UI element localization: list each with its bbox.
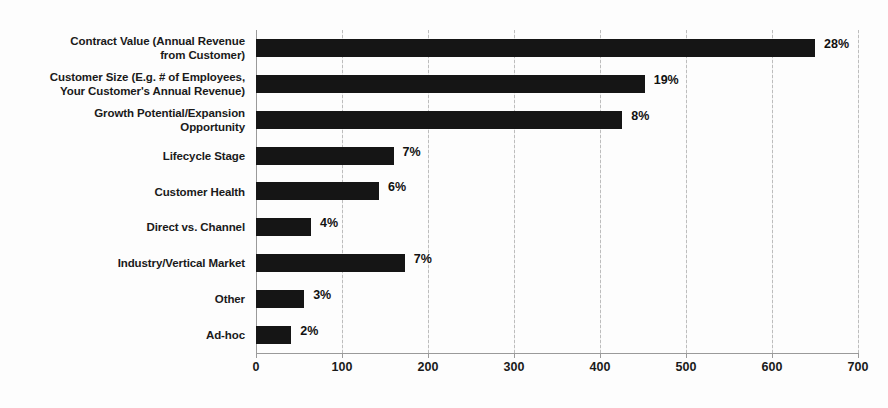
category-label: Lifecycle Stage bbox=[163, 149, 250, 163]
x-axis-tick-label: 200 bbox=[418, 360, 439, 374]
tick-mark bbox=[428, 353, 429, 358]
category-row: Other bbox=[0, 281, 250, 317]
category-label: Customer Size (E.g. # of Employees, Your… bbox=[50, 70, 250, 98]
x-axis-line bbox=[256, 353, 858, 354]
x-axis-tick-label: 500 bbox=[676, 360, 697, 374]
tick-mark bbox=[772, 353, 773, 358]
category-label: Contract Value (Annual Revenue from Cust… bbox=[70, 34, 250, 62]
tick-mark bbox=[342, 353, 343, 358]
bar-row: 28% bbox=[256, 30, 858, 66]
category-row: Contract Value (Annual Revenue from Cust… bbox=[0, 30, 250, 66]
bar-value-label: 3% bbox=[313, 288, 331, 302]
category-label: Industry/Vertical Market bbox=[118, 256, 250, 270]
x-axis-tick-labels: 0100200300400500600700 bbox=[256, 360, 858, 384]
tick-mark bbox=[514, 353, 515, 358]
category-label: Growth Potential/Expansion Opportunity bbox=[94, 106, 250, 134]
category-row: Lifecycle Stage bbox=[0, 138, 250, 174]
bar-row: 19% bbox=[256, 66, 858, 102]
x-axis-tick-label: 0 bbox=[253, 360, 260, 374]
bar bbox=[256, 290, 304, 308]
tick-mark bbox=[256, 353, 257, 358]
bar bbox=[256, 254, 405, 272]
tick-mark bbox=[858, 353, 859, 358]
bar-value-label: 7% bbox=[403, 145, 421, 159]
x-axis-tick-label: 100 bbox=[332, 360, 353, 374]
category-label: Ad-hoc bbox=[206, 328, 250, 342]
bar bbox=[256, 147, 394, 165]
category-row: Direct vs. Channel bbox=[0, 210, 250, 246]
bar-value-label: 28% bbox=[824, 37, 849, 51]
bar-row: 3% bbox=[256, 281, 858, 317]
category-row: Industry/Vertical Market bbox=[0, 245, 250, 281]
category-axis-labels: Contract Value (Annual Revenue from Cust… bbox=[0, 30, 250, 353]
plot-area: 28%19%8%7%6%4%7%3%2% bbox=[256, 30, 858, 353]
tick-mark bbox=[600, 353, 601, 358]
bar bbox=[256, 218, 311, 236]
gridline bbox=[858, 30, 859, 353]
category-row: Customer Health bbox=[0, 174, 250, 210]
x-axis-tick-label: 700 bbox=[848, 360, 869, 374]
bar-value-label: 4% bbox=[320, 216, 338, 230]
bar-value-label: 6% bbox=[388, 180, 406, 194]
bar-row: 4% bbox=[256, 209, 858, 245]
x-axis-tick-label: 400 bbox=[590, 360, 611, 374]
bar-row: 8% bbox=[256, 102, 858, 138]
bar bbox=[256, 111, 622, 129]
x-axis-tick-label: 300 bbox=[504, 360, 525, 374]
bar-value-label: 8% bbox=[631, 109, 649, 123]
bar-row: 7% bbox=[256, 245, 858, 281]
category-row: Ad-hoc bbox=[0, 317, 250, 353]
bar bbox=[256, 182, 379, 200]
bar-row: 2% bbox=[256, 317, 858, 353]
category-label: Customer Health bbox=[154, 185, 250, 199]
category-row: Customer Size (E.g. # of Employees, Your… bbox=[0, 66, 250, 102]
bar bbox=[256, 39, 815, 57]
bar-value-label: 19% bbox=[654, 73, 679, 87]
category-label: Other bbox=[215, 292, 250, 306]
category-row: Growth Potential/Expansion Opportunity bbox=[0, 102, 250, 138]
bar bbox=[256, 75, 645, 93]
bar-chart: Contract Value (Annual Revenue from Cust… bbox=[0, 0, 888, 408]
bar-row: 6% bbox=[256, 174, 858, 210]
bar-value-label: 2% bbox=[300, 324, 318, 338]
x-axis-tick-label: 600 bbox=[762, 360, 783, 374]
tick-mark bbox=[686, 353, 687, 358]
category-label: Direct vs. Channel bbox=[146, 220, 250, 234]
bar-value-label: 7% bbox=[414, 252, 432, 266]
bar bbox=[256, 326, 291, 344]
bar-row: 7% bbox=[256, 138, 858, 174]
